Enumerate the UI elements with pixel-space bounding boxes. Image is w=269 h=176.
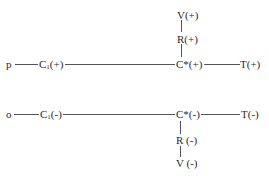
node-t-plus: T(+) bbox=[240, 58, 260, 70]
edge-c1-cstar bbox=[65, 64, 175, 65]
edge-r-cstar bbox=[181, 44, 182, 57]
node-p: p bbox=[6, 58, 12, 70]
edge-cstar-r bbox=[180, 121, 181, 134]
node-v-plus: V(+) bbox=[177, 9, 198, 21]
node-r-minus: R (-) bbox=[176, 134, 197, 146]
edge-cstar-t bbox=[204, 64, 240, 65]
edge-p-c1 bbox=[15, 64, 38, 65]
edge-r-v bbox=[180, 146, 181, 157]
edge-c1-cstar bbox=[63, 114, 175, 115]
c1-sign: (+) bbox=[50, 58, 64, 70]
node-o: o bbox=[6, 108, 12, 120]
node-v-minus: V (-) bbox=[176, 157, 197, 169]
node-c1-plus: C1(+) bbox=[39, 58, 63, 73]
c1-sign: (-) bbox=[51, 108, 62, 120]
edge-v-r bbox=[181, 20, 182, 32]
edge-cstar-t bbox=[201, 114, 240, 115]
node-c1-minus: C1(-) bbox=[40, 108, 62, 123]
node-r-plus: R(+) bbox=[177, 33, 198, 45]
edge-o-c1 bbox=[14, 114, 39, 115]
node-cstar-minus: C*(-) bbox=[176, 108, 200, 120]
node-cstar-plus: C*(+) bbox=[176, 58, 202, 70]
node-t-minus: T(-) bbox=[241, 108, 259, 120]
